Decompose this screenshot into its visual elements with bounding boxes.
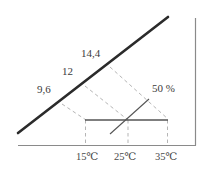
process-diagonal-line (110, 99, 149, 134)
dashed-projection-mid (85, 86, 128, 120)
axis-tick-label-25c: 25℃ (114, 152, 136, 163)
chart-figure: 9,6 12 14,4 50 % 15℃ 25℃ 35℃ (0, 0, 211, 173)
label-value-low: 9,6 (37, 84, 51, 95)
dashed-projection-low (62, 104, 86, 120)
axis-tick-label-35c: 35℃ (155, 152, 177, 163)
saturation-diagonal-line (18, 17, 168, 133)
chart-canvas (0, 0, 211, 173)
label-value-mid: 12 (62, 66, 73, 77)
axis-tick-label-15c: 15℃ (76, 152, 98, 163)
label-value-high: 14,4 (81, 48, 100, 59)
label-relative-humidity-percent: 50 % (152, 83, 175, 94)
